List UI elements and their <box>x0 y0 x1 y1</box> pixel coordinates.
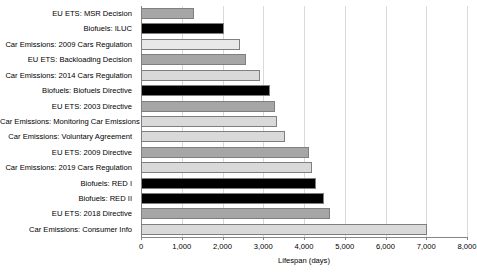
bar-row <box>141 22 467 35</box>
plot-area <box>141 6 467 237</box>
bar-row <box>141 100 467 113</box>
bar-row <box>141 207 467 220</box>
axis-tick <box>386 237 387 240</box>
bar-row <box>141 177 467 190</box>
axis-tick-label: 5,000 <box>335 241 354 252</box>
bar-row <box>141 7 467 20</box>
bar <box>141 224 427 235</box>
category-label: Car Emissions: Monitoring Car Emissions <box>0 115 136 128</box>
axis-tick <box>141 237 142 240</box>
axis-tick <box>182 237 183 240</box>
axis-tick-label: 2,000 <box>213 241 232 252</box>
bar <box>141 70 260 81</box>
category-label: Biofuels: ILUC <box>0 22 136 35</box>
bar <box>141 85 270 96</box>
bar-row <box>141 161 467 174</box>
category-label: EU ETS: 2009 Directive <box>0 146 136 159</box>
category-label: EU ETS: 2018 Directive <box>0 207 136 220</box>
category-label: Car Emissions: 2014 Cars Regulation <box>0 69 136 82</box>
gridline-8000 <box>467 6 468 237</box>
bar <box>141 101 275 112</box>
bar-row <box>141 53 467 66</box>
axis-tick-label: 4,000 <box>294 241 313 252</box>
bar-row <box>141 192 467 205</box>
bar <box>141 116 277 127</box>
bar <box>141 208 330 219</box>
category-label: Biofuels: Biofuels Directive <box>0 84 136 97</box>
bar <box>141 162 312 173</box>
category-label: EU ETS: 2003 Directive <box>0 100 136 113</box>
axis-tick <box>304 237 305 240</box>
bar <box>141 23 224 34</box>
axis-tick-label: 7,000 <box>417 241 436 252</box>
bar-row <box>141 223 467 236</box>
axis-tick <box>263 237 264 240</box>
category-label: Car Emissions: 2009 Cars Regulation <box>0 38 136 51</box>
axis-tick <box>467 237 468 240</box>
category-axis-labels: EU ETS: MSR DecisionBiofuels: ILUCCar Em… <box>0 6 136 237</box>
bar-row <box>141 38 467 51</box>
category-label: EU ETS: MSR Decision <box>0 7 136 20</box>
value-axis-title: Lifespan (days) <box>141 256 467 265</box>
bar <box>141 39 240 50</box>
category-label: EU ETS: Backloading Decision <box>0 53 136 66</box>
category-label: Car Emissions: Voluntary Agreement <box>0 130 136 143</box>
bar-row <box>141 69 467 82</box>
category-label: Biofuels: RED II <box>0 192 136 205</box>
bar <box>141 178 316 189</box>
bar <box>141 54 246 65</box>
axis-tick <box>426 237 427 240</box>
axis-tick-label: 0 <box>139 241 143 252</box>
category-label: Car Emissions: Consumer Info <box>0 223 136 236</box>
category-label: Biofuels: RED I <box>0 177 136 190</box>
bar-row <box>141 130 467 143</box>
bar-series <box>141 6 467 237</box>
bar <box>141 147 309 158</box>
bar <box>141 193 324 204</box>
bar-row <box>141 84 467 97</box>
axis-tick-label: 6,000 <box>376 241 395 252</box>
axis-tick-label: 3,000 <box>254 241 273 252</box>
axis-tick <box>223 237 224 240</box>
axis-tick-label: 8,000 <box>457 241 476 252</box>
bar-row <box>141 146 467 159</box>
category-label: Car Emissions: 2019 Cars Regulation <box>0 161 136 174</box>
bar-row <box>141 115 467 128</box>
value-axis-tick-labels: 01,0002,0003,0004,0005,0006,0007,0008,00… <box>0 241 476 253</box>
bar <box>141 8 194 19</box>
bar <box>141 131 285 142</box>
axis-tick-label: 1,000 <box>172 241 191 252</box>
axis-tick <box>345 237 346 240</box>
